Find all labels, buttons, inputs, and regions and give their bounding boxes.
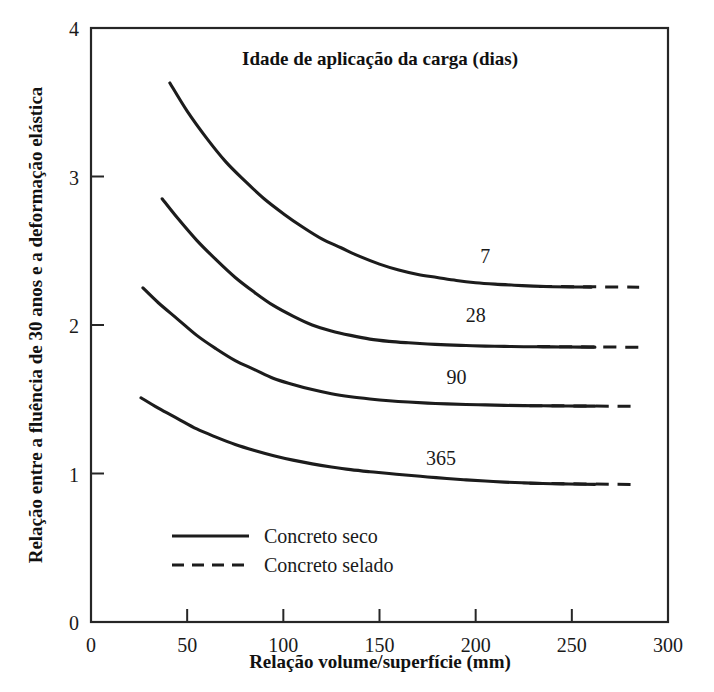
y-tick-label: 2 (69, 315, 79, 337)
y-tick-label: 4 (69, 18, 79, 40)
y-tick-label: 3 (69, 167, 79, 189)
x-tick-label: 250 (557, 634, 587, 656)
series-label-7: 7 (480, 245, 490, 267)
curve-solid-365 (141, 398, 595, 485)
y-tick-label: 0 (69, 612, 79, 634)
data-curves (141, 83, 641, 485)
y-axis-title: Relação entre a fluência de 30 anos e a … (25, 86, 46, 563)
x-tick-label: 0 (86, 634, 96, 656)
legend: Concreto seco Concreto selado (172, 525, 393, 576)
series-label-365: 365 (426, 447, 456, 469)
legend-label-concreto-selado: Concreto selado (264, 554, 393, 576)
creep-ratio-line-chart: 01234 050100150200250300 72890365 Idade … (0, 0, 714, 692)
legend-label-concreto-seco: Concreto seco (264, 525, 378, 547)
chart-title: Idade de aplicação da carga (dias) (242, 48, 518, 70)
plot-frame (91, 28, 668, 622)
curve-solid-7 (170, 83, 591, 287)
y-axis-tick-labels: 01234 (69, 18, 79, 634)
x-tick-label: 300 (653, 634, 683, 656)
y-axis-ticks (91, 177, 104, 474)
series-label-28: 28 (466, 304, 486, 326)
x-axis-title: Relação volume/superfície (mm) (249, 651, 511, 673)
figure-container: 01234 050100150200250300 72890365 Idade … (0, 0, 714, 692)
curve-solid-28 (162, 199, 595, 347)
y-tick-label: 1 (69, 464, 79, 486)
x-tick-label: 50 (177, 634, 197, 656)
series-label-90: 90 (446, 366, 466, 388)
x-axis-ticks (187, 609, 572, 622)
